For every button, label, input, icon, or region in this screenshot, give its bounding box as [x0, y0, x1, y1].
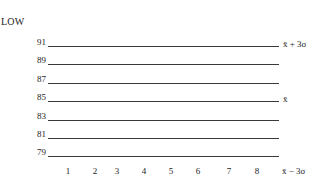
chart-title: LOW: [1, 16, 24, 27]
control-limit-label: x̄: [283, 94, 288, 104]
y-level-label: 85: [32, 92, 46, 102]
level-line: [48, 83, 279, 84]
lower-control-limit-label: x̄ − 3σ: [282, 166, 305, 176]
x-tick-label: 1: [66, 166, 71, 176]
x-tick-label: 7: [227, 166, 232, 176]
x-tick-label: 5: [169, 166, 174, 176]
chart-row: 79: [0, 156, 312, 168]
level-line: [48, 120, 279, 121]
level-line: [48, 64, 279, 65]
level-line: [48, 138, 279, 139]
x-tick-label: 6: [196, 166, 201, 176]
y-level-label: 89: [32, 55, 46, 65]
y-level-label: 83: [32, 111, 46, 121]
chart-row: 89: [0, 64, 312, 76]
y-level-label: 79: [32, 147, 46, 157]
y-level-label: 91: [32, 37, 46, 47]
level-line: [48, 156, 279, 157]
chart-row: 81: [0, 138, 312, 150]
x-tick-label: 3: [115, 166, 120, 176]
chart-row: 87: [0, 83, 312, 95]
chart-row: 91x̄ + 3σ: [0, 46, 312, 58]
x-tick-label: 8: [255, 166, 260, 176]
chart-row: 85x̄: [0, 101, 312, 113]
x-tick-label: 4: [142, 166, 147, 176]
chart-row: 83: [0, 120, 312, 132]
control-limit-label: x̄ + 3σ: [283, 39, 306, 49]
y-level-label: 81: [32, 129, 46, 139]
y-level-label: 87: [32, 74, 46, 84]
level-line: [48, 101, 279, 102]
level-line: [48, 46, 279, 47]
x-tick-label: 2: [93, 166, 98, 176]
